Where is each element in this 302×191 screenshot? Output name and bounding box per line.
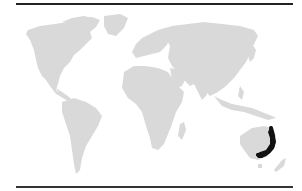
south-america — [62, 98, 102, 174]
greenland — [104, 14, 128, 36]
north-america — [26, 17, 100, 100]
world-map — [0, 0, 302, 191]
tasmania — [258, 164, 262, 168]
new-zealand — [274, 158, 286, 172]
southeast-asia-islands — [214, 96, 276, 120]
madagascar — [178, 122, 186, 140]
bottom-rule — [16, 186, 293, 188]
philippines — [238, 86, 244, 100]
land-masses — [26, 14, 286, 174]
